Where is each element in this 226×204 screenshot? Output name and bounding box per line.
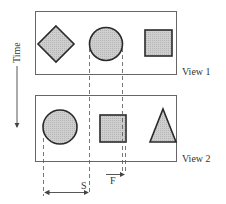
view-1-label: View 1 (182, 66, 211, 77)
motion-diagram: Time View 1 View 2 S F (0, 0, 226, 204)
view-2-label: View 2 (182, 153, 211, 164)
view-1: View 1 (36, 12, 211, 78)
time-label: Time (11, 42, 22, 63)
s-label: S (81, 180, 87, 191)
measurement-f: F (106, 175, 124, 187)
time-axis: Time (11, 42, 22, 127)
measurement-s: S (45, 180, 88, 193)
view-2: View 2 (36, 96, 211, 165)
circle-shape (90, 28, 123, 61)
f-label: F (110, 175, 116, 186)
square-shape (145, 30, 172, 56)
circle-shape (43, 110, 77, 144)
